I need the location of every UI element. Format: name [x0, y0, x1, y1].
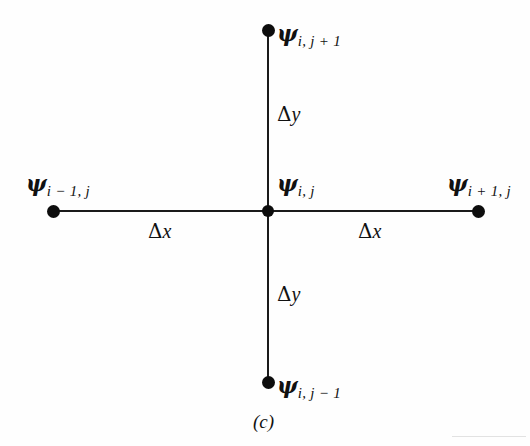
node-right	[472, 205, 485, 218]
delta-glyph: Δ	[277, 282, 291, 306]
delta-glyph: Δ	[277, 102, 291, 126]
node-label-bottom: ψi, j − 1	[277, 374, 341, 397]
node-left	[47, 205, 60, 218]
spacing-label-dy-upper: Δy	[277, 104, 300, 124]
psi-subscript: i, j + 1	[298, 33, 341, 49]
spacing-label-dx-right: Δx	[358, 221, 381, 241]
figure-caption: (c)	[253, 411, 274, 433]
node-top	[262, 24, 275, 37]
stencil-arm-down	[267, 211, 269, 382]
stencil-arm-right	[268, 210, 478, 212]
scan-artifact-line	[452, 436, 526, 437]
psi-subscript: i, j − 1	[298, 385, 341, 401]
spacing-label-dx-left: Δx	[148, 221, 171, 241]
delta-glyph: Δ	[148, 219, 162, 243]
delta-variable: x	[162, 220, 171, 242]
delta-variable: x	[372, 220, 381, 242]
node-bottom	[262, 376, 275, 389]
psi-glyph: ψ	[277, 170, 298, 196]
node-label-left: ψi − 1, j	[26, 172, 90, 195]
delta-variable: y	[291, 283, 300, 305]
node-label-center: ψi, j	[277, 172, 315, 195]
spacing-label-dy-lower: Δy	[277, 284, 300, 304]
psi-glyph: ψ	[277, 372, 298, 398]
node-label-right: ψi + 1, j	[447, 172, 511, 195]
psi-glyph: ψ	[26, 170, 47, 196]
stencil-arm-left	[53, 210, 268, 212]
psi-subscript: i + 1, j	[468, 183, 511, 199]
stencil-arm-up	[267, 30, 269, 211]
delta-glyph: Δ	[358, 219, 372, 243]
node-center	[262, 205, 274, 217]
psi-glyph: ψ	[277, 20, 298, 46]
node-label-top: ψi, j + 1	[277, 22, 341, 45]
delta-variable: y	[291, 103, 300, 125]
psi-subscript: i − 1, j	[47, 183, 90, 199]
psi-subscript: i, j	[298, 183, 315, 199]
figure-canvas: ψi, j + 1 ψi − 1, j ψi, j ψi + 1, j ψi, …	[0, 0, 530, 446]
psi-glyph: ψ	[447, 170, 468, 196]
